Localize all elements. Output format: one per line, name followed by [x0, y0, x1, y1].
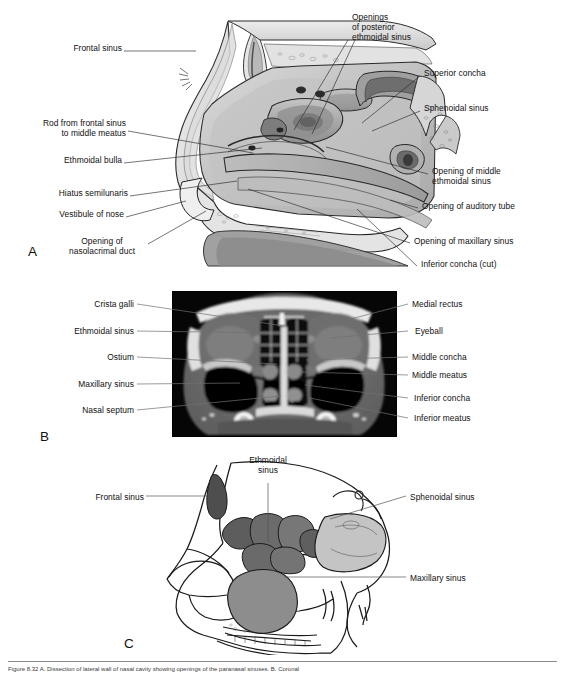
label-ethmoidal-sinus-c: Ethmoidal sinus [228, 455, 308, 475]
label-maxillary-sinus-c: Maxillary sinus [410, 573, 540, 583]
figure-caption: Figure 8.32 A. Dissection of lateral wal… [8, 666, 557, 675]
label-frontal-sinus-c: Frontal sinus [58, 492, 144, 502]
panel-letter-c: C [124, 636, 134, 651]
figure-container: Frontal sinus Rod from frontal sinus to … [0, 0, 565, 676]
label-sphenoidal-sinus-c: Sphenoidal sinus [410, 492, 540, 502]
caption-rule [8, 661, 557, 662]
panel-c-artwork [135, 455, 425, 655]
panel-c: Ethmoidal sinus Frontal sinus Sphenoidal… [0, 0, 565, 676]
